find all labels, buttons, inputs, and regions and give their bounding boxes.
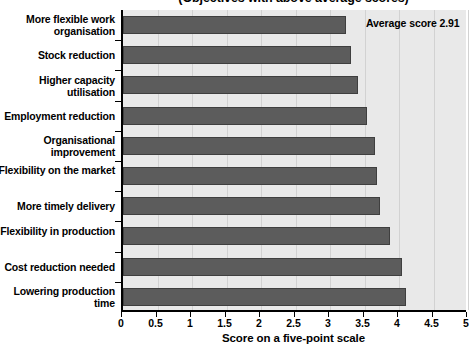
y-axis-label: Stock reduction bbox=[0, 49, 115, 61]
y-axis-label: Cost reduction needed bbox=[0, 261, 115, 273]
bar-row bbox=[123, 252, 466, 282]
y-axis-label: Flexibility in production bbox=[0, 225, 115, 237]
y-axis-label: Higher capacity utilisation bbox=[0, 74, 115, 98]
y-axis-label: More timely delivery bbox=[0, 200, 115, 212]
y-axis-label: Organisational improvement bbox=[0, 134, 115, 158]
plot-area bbox=[121, 10, 466, 312]
y-axis-tick bbox=[115, 191, 121, 192]
bar-row bbox=[123, 221, 466, 251]
y-axis-label: Employment reduction bbox=[0, 110, 115, 122]
bar-row bbox=[123, 101, 466, 131]
bar-row bbox=[123, 40, 466, 70]
bar bbox=[123, 137, 375, 155]
y-axis-tick bbox=[115, 221, 121, 222]
bar bbox=[123, 76, 358, 94]
bar bbox=[123, 46, 351, 64]
y-axis-tick bbox=[115, 282, 121, 283]
bar bbox=[123, 107, 367, 125]
bar bbox=[123, 227, 390, 245]
bar bbox=[123, 167, 377, 185]
chart-title: (Objectives with above average scores) bbox=[121, 0, 466, 5]
y-axis-tick bbox=[115, 252, 121, 253]
y-axis-label: Lowering production time bbox=[0, 285, 115, 309]
y-axis-label: Flexibility on the market bbox=[0, 164, 115, 176]
x-axis-title: Score on a five-point scale bbox=[121, 332, 466, 344]
bar-chart: (Objectives with above average scores) M… bbox=[0, 0, 472, 349]
bar-row bbox=[123, 70, 466, 100]
x-axis-tick-label: 5 bbox=[446, 317, 472, 329]
bar bbox=[123, 197, 380, 215]
y-axis-tick bbox=[115, 70, 121, 71]
y-axis-label: More flexible work organisation bbox=[0, 13, 115, 37]
bar-row bbox=[123, 191, 466, 221]
y-axis-tick bbox=[115, 40, 121, 41]
bar bbox=[123, 16, 346, 34]
gridline bbox=[468, 10, 469, 310]
bar-row bbox=[123, 282, 466, 312]
bar-row bbox=[123, 161, 466, 191]
y-axis-tick bbox=[115, 131, 121, 132]
y-axis-tick bbox=[115, 161, 121, 162]
y-axis-tick bbox=[115, 101, 121, 102]
average-score-annotation: Average score 2.91 bbox=[366, 17, 460, 29]
bar bbox=[123, 258, 402, 276]
bar bbox=[123, 288, 406, 306]
bar-row bbox=[123, 131, 466, 161]
